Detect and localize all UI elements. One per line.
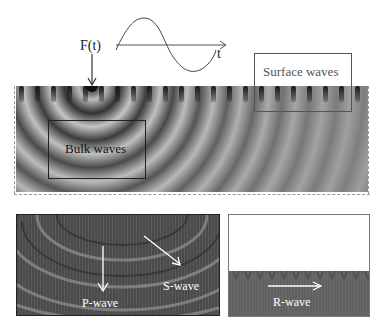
panel-dashed-border-right	[368, 86, 369, 194]
panel-dashed-border-left	[14, 86, 15, 194]
force-arrow-icon	[86, 54, 100, 90]
r-wave-label: R-wave	[273, 295, 310, 310]
panel-dashed-border-bottom	[14, 194, 370, 195]
sine-signal-chart	[112, 10, 242, 80]
surface-waves-region	[254, 53, 352, 112]
surface-waves-label: Surface waves	[263, 64, 338, 80]
bulk-waves-label: Bulk waves	[65, 141, 126, 157]
s-wave-label: S-wave	[163, 279, 199, 294]
p-wave-arrow-icon	[96, 246, 110, 294]
r-wave-arrow-icon	[268, 280, 324, 292]
body-waves-panel	[16, 214, 220, 316]
p-wave-label: P-wave	[82, 296, 118, 311]
time-axis-label: t	[217, 46, 221, 62]
force-label: F(t)	[80, 38, 101, 54]
s-wave-arrow-icon	[142, 234, 186, 270]
